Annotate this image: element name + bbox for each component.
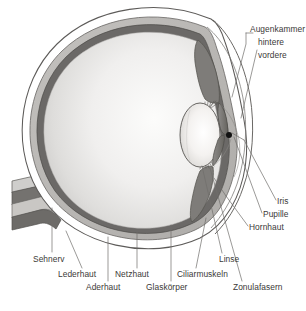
label-iris: Iris: [277, 196, 288, 206]
label-zonulafasern: Zonulafasern: [233, 282, 282, 292]
label-pupille: Pupille: [263, 209, 289, 219]
label-glaskoerper: Glaskörper: [146, 282, 187, 292]
pupil-marker: [226, 132, 232, 138]
label-hornhaut: Hornhaut: [249, 222, 284, 232]
label-netzhaut: Netzhaut: [115, 269, 149, 279]
label-ciliarmuskeln: Ciliarmuskeln: [177, 269, 228, 279]
label-linse: Linse: [219, 254, 239, 264]
label-aderhaut: Aderhaut: [86, 282, 120, 292]
eye-anatomy-diagram: Augenkammer hintere vordere Iris Pupille…: [0, 0, 306, 311]
label-augenkammer: Augenkammer: [250, 24, 305, 34]
label-sehnerv: Sehnerv: [33, 254, 65, 264]
label-vordere: vordere: [258, 50, 287, 60]
label-lederhaut: Lederhaut: [58, 269, 96, 279]
label-hintere: hintere: [258, 37, 284, 47]
